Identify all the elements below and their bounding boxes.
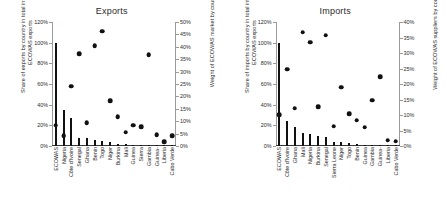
bar bbox=[63, 110, 65, 146]
right-tick-mark bbox=[176, 96, 179, 97]
bar bbox=[395, 145, 397, 146]
left-tick-mark bbox=[273, 63, 276, 64]
right-tick-mark bbox=[176, 59, 179, 60]
right-tick-mark bbox=[400, 53, 403, 54]
figure-root: Exports Share of exports by country in t… bbox=[0, 0, 447, 221]
x-tick-labels-imports: ECOWASCôte d'IvoireGhanaMaliNigeriaBurki… bbox=[276, 147, 400, 217]
x-tick-label: Mali bbox=[123, 147, 129, 157]
x-tick-label: Guinea- bbox=[154, 147, 160, 166]
x-tick-label: Nigeria bbox=[307, 147, 313, 164]
bar bbox=[364, 145, 366, 146]
right-tick-mark bbox=[400, 69, 403, 70]
bar bbox=[140, 145, 142, 146]
panel-exports: Exports Share of exports by country in t… bbox=[0, 0, 224, 221]
left-tick-mark bbox=[273, 125, 276, 126]
left-tick-mark bbox=[273, 105, 276, 106]
data-point bbox=[69, 84, 74, 89]
left-tick-mark bbox=[49, 63, 52, 64]
right-tick-mark bbox=[176, 134, 179, 135]
x-tick-label: Burkina bbox=[115, 147, 121, 165]
x-tick-label: Guinea- bbox=[377, 147, 383, 166]
bar bbox=[148, 145, 150, 146]
right-tick-label: 15% bbox=[180, 106, 191, 112]
left-tick-label: 40% bbox=[261, 102, 272, 108]
bar bbox=[325, 137, 327, 146]
bar bbox=[387, 145, 389, 146]
right-tick-mark bbox=[400, 115, 403, 116]
y-axis-label-right-imports: Weight of ECOWAS suppliers by country bbox=[432, 0, 439, 94]
left-tick-label: 60% bbox=[37, 81, 48, 87]
bar bbox=[171, 145, 173, 146]
x-tick-label: Sierra Leone bbox=[331, 147, 337, 178]
x-tick-label: Cabo Verde bbox=[169, 147, 175, 175]
left-tick-label: 100% bbox=[34, 40, 48, 46]
x-tick-label: Togo bbox=[346, 147, 352, 159]
x-tick-label: Gambia bbox=[146, 147, 152, 166]
data-point bbox=[300, 30, 305, 35]
data-point bbox=[331, 124, 336, 129]
right-tick-label: 40% bbox=[180, 44, 191, 50]
data-point bbox=[123, 130, 128, 135]
x-tick-labels-exports: ECOWASNigeriaCôte d'IvoireSenegalGhanaBe… bbox=[52, 147, 176, 217]
left-tick-mark bbox=[273, 84, 276, 85]
right-tick-label: 30% bbox=[404, 50, 415, 56]
data-point bbox=[362, 125, 367, 130]
data-point bbox=[154, 133, 159, 138]
data-point bbox=[54, 123, 59, 128]
right-tick-mark bbox=[176, 47, 179, 48]
x-tick-label: Mali bbox=[300, 147, 306, 157]
bar bbox=[333, 142, 335, 146]
right-tick-mark bbox=[176, 72, 179, 73]
right-tick-label: 45% bbox=[180, 31, 191, 37]
x-tick-label: Guinea bbox=[130, 147, 136, 164]
x-tick-label: Benin bbox=[92, 147, 98, 161]
x-tick-label: Gambia bbox=[369, 147, 375, 166]
bar bbox=[125, 144, 127, 146]
x-tick-label: ECOWAS bbox=[53, 147, 59, 171]
bar bbox=[340, 142, 342, 146]
data-point bbox=[308, 40, 313, 45]
x-tick-label: Liberia bbox=[385, 147, 391, 163]
right-tick-mark bbox=[176, 84, 179, 85]
x-tick-label: Côte d'Ivoire bbox=[284, 147, 290, 177]
right-tick-label: 30% bbox=[180, 69, 191, 75]
data-point bbox=[370, 98, 375, 103]
bar bbox=[317, 136, 319, 146]
data-point bbox=[277, 113, 282, 118]
x-tick-label: Liberia bbox=[161, 147, 167, 163]
x-tick-label: Niger bbox=[107, 147, 113, 160]
left-tick-mark bbox=[273, 22, 276, 23]
bar bbox=[101, 141, 103, 146]
bar bbox=[163, 145, 165, 146]
right-tick-label: 35% bbox=[180, 56, 191, 62]
left-tick-label: 120% bbox=[34, 19, 48, 25]
right-tick-label: 20% bbox=[404, 81, 415, 87]
x-tick-label: ECOWAS bbox=[276, 147, 282, 171]
bar bbox=[117, 144, 119, 146]
right-tick-label: 0% bbox=[180, 143, 188, 149]
bar bbox=[356, 144, 358, 146]
data-point bbox=[116, 114, 121, 119]
right-tick-mark bbox=[400, 100, 403, 101]
bar bbox=[294, 127, 296, 146]
x-tick-label: Ghana bbox=[84, 147, 90, 163]
data-point bbox=[285, 67, 290, 72]
right-tick-label: 25% bbox=[404, 66, 415, 72]
data-point bbox=[108, 98, 113, 103]
data-point bbox=[85, 121, 90, 126]
bar bbox=[286, 121, 288, 146]
data-point bbox=[61, 133, 66, 138]
data-point bbox=[100, 29, 105, 34]
x-tick-label: Senegal bbox=[323, 147, 329, 167]
right-tick-label: 5% bbox=[180, 131, 188, 137]
data-point bbox=[147, 52, 152, 57]
left-tick-mark bbox=[49, 84, 52, 85]
x-tick-label: Niger bbox=[338, 147, 344, 160]
left-tick-label: 60% bbox=[261, 81, 272, 87]
bar bbox=[94, 140, 96, 146]
bar bbox=[278, 43, 280, 146]
left-tick-label: 0% bbox=[264, 143, 272, 149]
bar bbox=[70, 118, 72, 146]
right-tick-label: 20% bbox=[180, 93, 191, 99]
right-tick-label: 5% bbox=[404, 128, 412, 134]
